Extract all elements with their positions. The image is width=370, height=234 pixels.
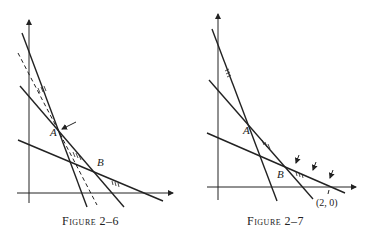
constraint-line-middle [20,86,124,207]
hatch-marks [225,69,303,178]
figure-caption: Figure 2–7 [247,214,304,229]
coordinate-label: (2, 0) [316,197,338,209]
point-a-label: A [242,124,250,136]
point-b-label: B [97,156,104,168]
constraint-line-middle [209,80,313,199]
tick-2-0 [328,190,329,194]
figure-caption: Figure 2–6 [62,214,119,229]
constraint-line-steep [22,33,87,207]
figure-2-6 [17,20,173,207]
point-a-label: A [49,126,57,138]
constraint-line-shallow [207,133,345,193]
constraint-line-steep [212,29,277,201]
point-b-label: B [277,168,284,180]
arrow-to-a-icon [62,122,76,129]
figures-canvas: A B A B (2, 0) [0,0,370,234]
